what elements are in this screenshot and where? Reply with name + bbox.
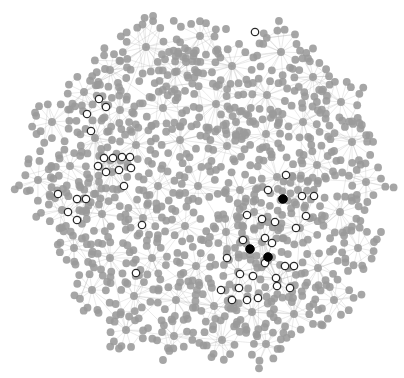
network-graph-canvas[interactable] [0,0,404,378]
network-graph-figure [0,0,404,378]
